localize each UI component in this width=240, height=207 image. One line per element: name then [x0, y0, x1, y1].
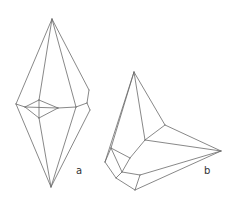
crystal-edge — [87, 103, 90, 110]
crystal-edge — [116, 178, 135, 190]
crystal-edge — [87, 90, 89, 103]
crystal-edge — [16, 104, 51, 187]
crystal-edge — [122, 158, 130, 172]
crystal-edge — [76, 103, 87, 107]
panel-label-a: a — [76, 166, 82, 176]
crystal-edge — [130, 140, 145, 158]
crystal-edge — [16, 19, 52, 104]
crystal-edge — [39, 100, 58, 108]
crystal-figure: a b — [0, 0, 240, 207]
crystal-edge — [111, 72, 134, 148]
crystal-edge — [51, 107, 76, 187]
crystal-edge — [105, 162, 116, 178]
crystal-edge — [52, 19, 76, 107]
crystal-edge — [105, 148, 111, 162]
crystal-edge — [25, 107, 39, 118]
crystal-edge — [111, 148, 122, 172]
crystal-edge — [25, 107, 58, 108]
crystal-edge — [25, 100, 39, 107]
crystal-edge — [39, 118, 51, 187]
crystal-edge — [58, 107, 76, 108]
crystal-edge — [116, 172, 122, 178]
crystal-edge — [51, 110, 90, 187]
crystal-edge — [39, 108, 58, 118]
crystal-edge — [134, 72, 145, 140]
crystal-edge — [52, 19, 89, 90]
crystal-edge — [122, 172, 140, 175]
crystal-edge — [111, 148, 130, 158]
crystal-edge — [145, 125, 165, 140]
crystal-edge — [39, 19, 52, 100]
panel-label-b: b — [204, 166, 210, 176]
crystal-a-wireframe — [16, 19, 90, 187]
